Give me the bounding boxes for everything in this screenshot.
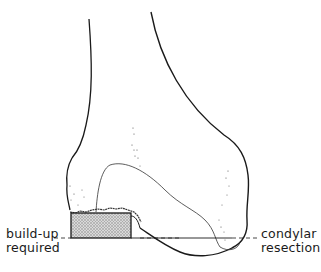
condyle-left-outline — [67, 158, 72, 210]
condylar-resection-label-line1: condylar — [261, 227, 320, 241]
condylar-resection-label: condylar resection — [261, 227, 320, 255]
shaft-right-outline — [140, 12, 249, 256]
condylar-resection-label-line2: resection — [261, 241, 320, 255]
build-up-label: build-up required — [6, 227, 60, 255]
build-up-label-line2: required — [6, 241, 60, 255]
diagram-canvas: build-up required condylar resection — [0, 0, 321, 272]
build-up-block — [71, 213, 131, 238]
shaft-left-outline — [72, 19, 91, 158]
build-up-label-line1: build-up — [6, 227, 60, 241]
